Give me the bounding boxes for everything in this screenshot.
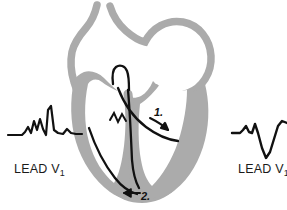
heart-conduction-figure: 1. 2. LEAD V1 LEAD V1 (0, 0, 287, 210)
ecg-trace-left-path (8, 106, 82, 135)
heart-cross-section (71, 5, 211, 203)
his-bundle (112, 66, 129, 90)
lead-label-left: LEAD V1 (14, 162, 65, 178)
lead-label-left-text: LEAD V (14, 162, 60, 176)
lead-label-left-subscript: 1 (60, 168, 65, 178)
right-atrium (110, 6, 211, 95)
figure-canvas (0, 0, 287, 210)
lead-label-right: LEAD V1 (238, 162, 287, 178)
ecg-trace-right (232, 121, 287, 158)
lead-label-right-subscript: 1 (284, 168, 287, 178)
lead-label-right-text: LEAD V (238, 162, 284, 176)
ecg-trace-right-path (232, 121, 287, 158)
ecg-trace-left (8, 106, 82, 135)
step-2-number: 2. (141, 190, 150, 202)
step-1-number: 1. (154, 106, 163, 118)
